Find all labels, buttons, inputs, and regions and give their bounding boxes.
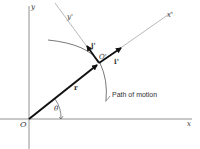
o-prime-label: O' xyxy=(99,54,107,61)
x-prime-label: x' xyxy=(167,12,173,19)
position-vector-r xyxy=(29,65,97,119)
r-vector-label: r xyxy=(74,84,78,91)
diagram-canvas: y x O y' x' O' j' i' r θ Path of motion xyxy=(0,0,200,149)
j-prime-label: j' xyxy=(91,42,96,49)
origin-label: O xyxy=(20,121,27,129)
i-prime-label: i' xyxy=(114,58,119,65)
x-axis-label: x xyxy=(187,121,191,128)
theta-label: θ xyxy=(54,106,58,113)
y-prime-label: y' xyxy=(67,14,73,21)
path-of-motion-label: Path of motion xyxy=(112,91,157,98)
y-axis-label: y xyxy=(31,4,35,11)
diagram-svg xyxy=(0,0,200,149)
